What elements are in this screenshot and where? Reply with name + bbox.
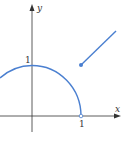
y-axis-arrow-icon (30, 4, 35, 11)
ray-line (81, 31, 116, 65)
x-axis-arrow-icon (114, 114, 121, 119)
semicircle-curve (0, 66, 81, 117)
piecewise-graph: y x 1 1 (0, 0, 124, 141)
y-axis-label: y (36, 3, 43, 13)
filled-endpoint (79, 63, 83, 67)
open-endpoint (79, 114, 83, 118)
x-tick-label: 1 (79, 119, 85, 129)
x-axis-label: x (115, 104, 120, 114)
y-tick-label: 1 (25, 55, 31, 65)
